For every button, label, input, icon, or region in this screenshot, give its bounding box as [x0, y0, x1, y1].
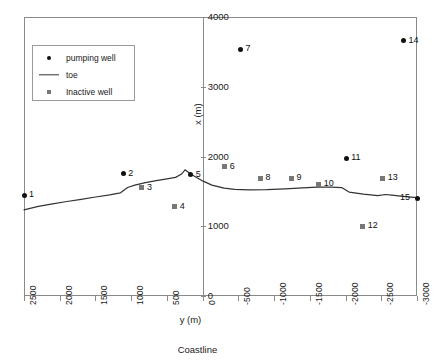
legend-item-inactive-well[interactable]: Inactive well [33, 83, 134, 101]
well-label-15: 15 [400, 192, 410, 202]
well-marker-15[interactable] [415, 196, 420, 201]
well-marker-9[interactable] [289, 176, 294, 181]
well-label-11: 11 [351, 152, 360, 162]
legend-item-toe[interactable]: toe [33, 66, 134, 84]
x-tick [131, 296, 132, 301]
y-tick-label: 0 [208, 290, 213, 301]
toe-polyline [24, 170, 417, 210]
x-tick-label: 500 [171, 290, 181, 305]
coastline-caption: Coastline [178, 344, 218, 355]
chart-legend: pumping welltoeInactive well [32, 45, 135, 101]
x-tick-label: 1500 [99, 285, 109, 305]
well-marker-2[interactable] [121, 171, 126, 176]
x-tick [167, 296, 168, 301]
legend-item-pumping-well[interactable]: pumping well [33, 49, 134, 67]
well-marker-12[interactable] [360, 224, 365, 229]
x-tick-label: -500 [242, 287, 252, 305]
legend-label: toe [66, 70, 78, 80]
x-tick-label: -1000 [278, 282, 288, 305]
y-tick-label: 2000 [208, 151, 229, 162]
legend-label: Inactive well [66, 87, 112, 97]
x-tick [274, 296, 275, 301]
well-label-12: 12 [368, 220, 378, 230]
x-tick-label: 1000 [135, 285, 145, 305]
legend-line-icon [39, 74, 59, 75]
well-marker-1[interactable] [22, 193, 27, 198]
x-tick [95, 296, 96, 301]
y-axis-title: x (m) [192, 103, 203, 125]
well-marker-3[interactable] [139, 185, 144, 190]
well-marker-8[interactable] [258, 176, 263, 181]
y-tick-label: 4000 [208, 11, 229, 22]
x-tick [60, 296, 61, 301]
x-tick-label: -3000 [421, 282, 431, 305]
chart-canvas: 25002000150010005000-500-1000-1500-2000-… [0, 0, 443, 363]
x-tick [417, 296, 418, 301]
well-label-10: 10 [324, 178, 334, 188]
legend-square-icon [47, 90, 51, 94]
well-label-3: 3 [147, 182, 152, 192]
y-tick [201, 157, 206, 158]
x-tick [238, 296, 239, 301]
x-tick [24, 296, 25, 301]
x-tick [381, 296, 382, 301]
x-axis-title: y (m) [180, 314, 202, 325]
well-label-9: 9 [297, 172, 302, 182]
y-tick [201, 226, 206, 227]
x-tick [346, 296, 347, 301]
y-tick-label: 1000 [208, 220, 229, 231]
y-tick [201, 296, 206, 297]
well-label-8: 8 [266, 172, 271, 182]
well-label-14: 14 [408, 35, 418, 45]
well-label-2: 2 [128, 168, 133, 178]
x-tick-label: -1500 [314, 282, 324, 305]
well-label-7: 7 [246, 43, 251, 53]
well-marker-6[interactable] [222, 164, 227, 169]
well-marker-4[interactable] [172, 204, 177, 209]
well-label-4: 4 [180, 201, 185, 211]
x-tick-label: 2500 [28, 285, 38, 305]
legend-label: pumping well [66, 53, 116, 63]
y-tick-label: 3000 [208, 81, 229, 92]
well-label-1: 1 [29, 189, 34, 199]
well-label-6: 6 [230, 161, 235, 171]
well-label-5: 5 [196, 169, 201, 179]
well-marker-7[interactable] [238, 47, 243, 52]
legend-dot-icon [47, 56, 51, 60]
x-tick-label: 2000 [64, 285, 74, 305]
x-tick-label: -2500 [385, 282, 395, 305]
well-marker-13[interactable] [380, 176, 385, 181]
y-tick [201, 17, 206, 18]
x-tick-label: -2000 [350, 282, 360, 305]
y-tick [201, 87, 206, 88]
well-marker-10[interactable] [316, 182, 321, 187]
well-marker-11[interactable] [344, 156, 349, 161]
x-tick [310, 296, 311, 301]
well-label-13: 13 [388, 172, 398, 182]
